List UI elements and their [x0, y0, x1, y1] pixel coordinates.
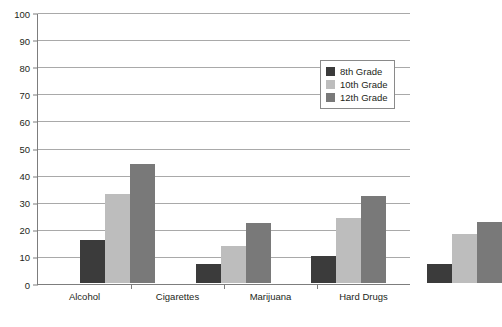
bar	[336, 218, 361, 283]
y-axis-tick-label: 50	[19, 145, 30, 155]
legend-label: 12th Grade	[340, 93, 388, 103]
y-axis-tick-label: 10	[19, 253, 30, 263]
legend-item[interactable]: 12th Grade	[326, 91, 388, 104]
y-axis-tick-mark	[33, 230, 38, 231]
bar	[221, 246, 246, 283]
bar	[130, 164, 155, 283]
x-axis-label: Cigarettes	[131, 292, 224, 302]
legend-label: 10th Grade	[340, 80, 388, 90]
y-axis-tick-mark	[33, 122, 38, 123]
legend-label: 8th Grade	[340, 67, 382, 77]
bars-layer	[39, 14, 410, 283]
y-axis-tick-mark	[33, 68, 38, 69]
y-axis-tick-label: 30	[19, 199, 30, 209]
y-axis-tick-mark	[33, 176, 38, 177]
y-axis-tick-mark	[33, 257, 38, 258]
y-axis-tick-label: 100	[14, 9, 30, 19]
legend-item[interactable]: 8th Grade	[326, 65, 388, 78]
y-axis-tick-mark	[33, 285, 38, 286]
x-axis-labels: AlcoholCigarettesMarijuanaHard Drugs	[38, 292, 410, 302]
x-axis-label: Alcohol	[38, 292, 131, 302]
bar	[427, 264, 452, 283]
y-axis-tick-mark	[33, 203, 38, 204]
legend-swatch	[326, 67, 335, 76]
y-axis-tick-label: 80	[19, 63, 30, 73]
y-axis-tick-label: 70	[19, 91, 30, 101]
bar	[196, 264, 221, 283]
y-axis-tick-mark	[33, 41, 38, 42]
y-axis-tick-mark	[33, 14, 38, 15]
bar	[105, 194, 130, 283]
bar	[477, 222, 502, 283]
bar-group	[386, 14, 502, 283]
bar	[361, 196, 386, 283]
bar	[311, 256, 336, 283]
y-axis-tick-label: 90	[19, 36, 30, 46]
bar-group	[39, 14, 155, 283]
y-axis-tick-mark	[33, 149, 38, 150]
x-axis-tick	[224, 284, 225, 289]
bar	[452, 234, 477, 283]
bar	[80, 240, 105, 283]
legend-swatch	[326, 80, 335, 89]
x-axis-tick	[317, 284, 318, 289]
legend: 8th Grade10th Grade12th Grade	[320, 60, 395, 109]
y-axis-tick-mark	[33, 95, 38, 96]
legend-swatch	[326, 93, 335, 102]
plot-area: 0102030405060708090100	[37, 14, 410, 285]
x-axis-tick	[131, 284, 132, 289]
bar-group	[155, 14, 271, 283]
x-axis-label: Hard Drugs	[317, 292, 410, 302]
bar-group	[271, 14, 387, 283]
y-axis-tick-label: 60	[19, 118, 30, 128]
y-axis-tick-label: 40	[19, 172, 30, 182]
y-axis-tick-label: 0	[25, 280, 30, 290]
bar	[246, 223, 271, 283]
x-axis-label: Marijuana	[224, 292, 317, 302]
y-axis-tick-label: 20	[19, 226, 30, 236]
legend-item[interactable]: 10th Grade	[326, 78, 388, 91]
